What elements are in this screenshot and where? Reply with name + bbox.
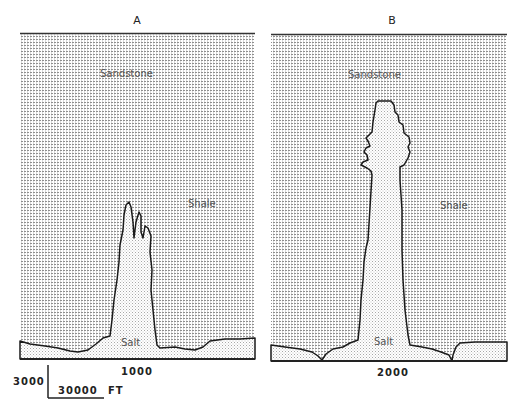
panel-a-shale-label: Shale	[188, 198, 216, 209]
panel-a-salt-label: Salt	[121, 337, 140, 348]
panel-a: A Sandstone Shale Salt 1000	[20, 14, 255, 377]
panel-b-sandstone-label: Sandstone	[348, 69, 401, 80]
panel-b-salt-label: Salt	[374, 336, 393, 347]
panel-b-time-label: 2000	[377, 367, 409, 378]
scale-bar: 3000 30000 FT	[13, 365, 124, 398]
panel-b-title: B	[388, 14, 396, 27]
scale-bar-unit-label: FT	[108, 385, 124, 396]
panel-a-time-label: 1000	[121, 366, 153, 377]
scale-bar-horizontal-label: 30000	[58, 385, 98, 396]
panel-b-shale-label: Shale	[440, 200, 468, 211]
scale-bar-vertical-label: 3000	[13, 376, 45, 387]
panel-a-sandstone-label: Sandstone	[100, 68, 153, 79]
panel-a-title: A	[133, 14, 141, 27]
panel-b: B Sandstone Shale Salt 2000	[271, 14, 507, 378]
salt-diapir-figure: A Sandstone Shale Salt 1000 B Sandstone …	[0, 0, 519, 409]
